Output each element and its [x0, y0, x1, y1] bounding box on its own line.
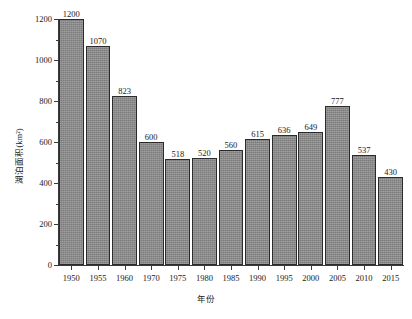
y-tick-label: 600 — [39, 137, 52, 147]
bar-value-label: 520 — [198, 148, 211, 158]
x-tick-label: 1985 — [223, 273, 240, 283]
bar: 518 — [165, 159, 190, 265]
bar-value-label: 823 — [118, 86, 131, 96]
bar: 1070 — [86, 46, 111, 265]
x-tick-label: 1970 — [143, 273, 160, 283]
bar-value-label: 1070 — [89, 36, 106, 46]
bar-value-label: 600 — [145, 132, 158, 142]
x-tick — [71, 266, 72, 270]
y-tick-minor — [56, 40, 59, 41]
bar-value-label: 430 — [384, 167, 397, 177]
x-tick — [98, 266, 99, 270]
x-tick-label: 1960 — [116, 273, 133, 283]
x-tick-label: 1950 — [63, 273, 80, 283]
y-tick-major — [54, 101, 58, 102]
bar: 777 — [325, 106, 350, 265]
x-tick — [258, 266, 259, 270]
bar: 649 — [298, 132, 323, 265]
bar-chart: 湖泊面积(km²) 020040060080010001200 19501955… — [0, 0, 412, 319]
x-tick — [151, 266, 152, 270]
bar: 560 — [219, 150, 244, 265]
x-tick — [125, 266, 126, 270]
y-tick-label: 0 — [48, 260, 52, 270]
bar-value-label: 777 — [331, 96, 344, 106]
x-tick — [178, 266, 179, 270]
bar: 600 — [139, 142, 164, 265]
bar-value-label: 649 — [304, 122, 317, 132]
x-tick — [311, 266, 312, 270]
x-tick-label: 2005 — [329, 273, 346, 283]
x-tick-label: 2010 — [356, 273, 373, 283]
y-tick-major — [54, 142, 58, 143]
x-tick-label: 2015 — [382, 273, 399, 283]
x-tick — [391, 266, 392, 270]
bar-value-label: 518 — [171, 149, 184, 159]
x-tick-label: 1975 — [169, 273, 186, 283]
x-tick — [364, 266, 365, 270]
y-tick-minor — [56, 245, 59, 246]
y-tick-label: 800 — [39, 96, 52, 106]
y-tick-major — [54, 265, 58, 266]
x-tick-label: 1990 — [249, 273, 266, 283]
y-tick-major — [54, 60, 58, 61]
x-tick-label: 2000 — [302, 273, 319, 283]
bar-value-label: 1200 — [63, 9, 80, 19]
x-tick — [231, 266, 232, 270]
y-tick-label: 1200 — [35, 14, 52, 24]
y-axis-title: 湖泊面积(km²) — [12, 91, 24, 221]
y-tick-label: 400 — [39, 178, 52, 188]
bar: 520 — [192, 158, 217, 265]
x-tick-label: 1955 — [89, 273, 106, 283]
bar: 636 — [272, 135, 297, 265]
x-tick-label: 1995 — [276, 273, 293, 283]
y-tick-major — [54, 19, 58, 20]
bar: 615 — [245, 139, 270, 265]
y-tick-label: 1000 — [35, 55, 52, 65]
x-tick — [284, 266, 285, 270]
bar: 1200 — [59, 19, 84, 265]
bar-value-label: 537 — [358, 145, 371, 155]
x-tick — [337, 266, 338, 270]
x-tick-label: 1980 — [196, 273, 213, 283]
y-tick-major — [54, 224, 58, 225]
bar: 430 — [378, 177, 403, 265]
y-tick-minor — [56, 163, 59, 164]
y-tick-label: 200 — [39, 219, 52, 229]
bar: 537 — [352, 155, 377, 265]
y-tick-minor — [56, 204, 59, 205]
y-tick-minor — [56, 81, 59, 82]
plot-area: 020040060080010001200 195019551960197019… — [58, 19, 404, 266]
bar: 823 — [112, 96, 137, 265]
y-tick-minor — [56, 122, 59, 123]
bar-value-label: 615 — [251, 129, 264, 139]
x-axis-title: 年份 — [0, 292, 412, 304]
bar-value-label: 636 — [278, 125, 291, 135]
bar-value-label: 560 — [225, 140, 238, 150]
y-tick-major — [54, 183, 58, 184]
x-tick — [204, 266, 205, 270]
